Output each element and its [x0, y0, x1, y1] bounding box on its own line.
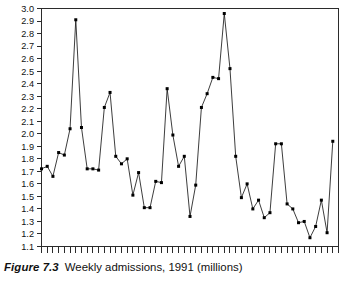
- data-point-marker: [166, 87, 169, 90]
- data-point-marker: [109, 91, 112, 94]
- data-point-marker: [263, 216, 266, 219]
- x-axis-tick-label: Dec: [319, 256, 336, 257]
- x-axis-tick-labels: JanJuneDec: [46, 256, 336, 257]
- y-axis-tick-label: 2.1: [21, 117, 34, 127]
- data-point-marker: [114, 155, 117, 158]
- y-axis-tick-label: 2.4: [21, 79, 34, 89]
- y-axis-tick-label: 1.8: [21, 154, 34, 164]
- data-point-marker: [160, 181, 163, 184]
- data-point-marker: [246, 182, 249, 185]
- data-point-marker: [331, 140, 334, 143]
- data-point-marker: [74, 18, 77, 21]
- data-point-marker: [177, 165, 180, 168]
- series-line: [42, 14, 333, 238]
- y-axis-tick-label: 1.4: [21, 204, 34, 214]
- data-point-marker: [40, 167, 43, 170]
- data-point-marker: [314, 225, 317, 228]
- data-point-marker: [189, 215, 192, 218]
- y-axis-tick-label: 2.0: [21, 129, 34, 139]
- data-point-marker: [126, 157, 129, 160]
- weekly-admissions-line-chart: 3.02.92.82.72.62.52.42.32.22.12.01.91.81…: [0, 0, 353, 256]
- data-point-marker: [194, 184, 197, 187]
- y-axis-tick-label: 2.2: [21, 104, 34, 114]
- y-axis-tick-label: 3.0: [21, 4, 34, 14]
- figure-caption: Figure 7.3Weekly admissions, 1991 (milli…: [4, 260, 349, 274]
- y-axis-tick-label: 2.3: [21, 92, 34, 102]
- data-point-marker: [69, 127, 72, 130]
- data-point-marker: [211, 76, 214, 79]
- y-axis-tick-label: 1.5: [21, 192, 34, 202]
- data-point-marker: [280, 142, 283, 145]
- data-point-marker: [320, 199, 323, 202]
- data-point-marker: [120, 162, 123, 165]
- y-axis-tick-label: 2.6: [21, 54, 34, 64]
- data-point-marker: [46, 165, 49, 168]
- y-axis-tick-label: 1.1: [21, 242, 34, 252]
- data-point-marker: [223, 12, 226, 15]
- series-weekly-admissions: [42, 14, 333, 238]
- data-point-marker: [240, 196, 243, 199]
- y-axis-tick-label: 1.3: [21, 217, 34, 227]
- data-point-marker: [308, 236, 311, 239]
- data-point-marker: [206, 92, 209, 95]
- y-axis-tick-label: 1.6: [21, 179, 34, 189]
- data-point-marker: [91, 167, 94, 170]
- data-point-marker: [303, 220, 306, 223]
- data-point-marker: [251, 207, 254, 210]
- data-point-marker: [326, 231, 329, 234]
- data-point-marker: [200, 106, 203, 109]
- y-axis-tick-label: 2.5: [21, 67, 34, 77]
- y-axis-tick-label: 2.9: [21, 16, 34, 26]
- x-axis-tick-label: June: [174, 256, 194, 257]
- data-point-marker: [291, 207, 294, 210]
- data-point-marker: [234, 155, 237, 158]
- y-axis-tick-label: 2.7: [21, 41, 34, 51]
- data-point-marker: [51, 175, 54, 178]
- data-point-marker: [286, 202, 289, 205]
- data-point-marker: [63, 154, 66, 157]
- data-point-marker: [268, 211, 271, 214]
- figure-caption-label: Figure 7.3: [4, 261, 59, 273]
- figure-container: 3.02.92.82.72.62.52.42.32.22.12.01.91.81…: [0, 0, 353, 283]
- y-axis-tick-label: 1.2: [21, 229, 34, 239]
- y-axis-tick-label: 2.8: [21, 29, 34, 39]
- data-point-marker: [257, 199, 260, 202]
- chart-plot-area: 3.02.92.82.72.62.52.42.32.22.12.01.91.81…: [0, 0, 353, 256]
- y-axis: 3.02.92.82.72.62.52.42.32.22.12.01.91.81…: [21, 4, 41, 252]
- data-point-markers: [40, 12, 334, 239]
- data-point-marker: [228, 67, 231, 70]
- data-point-marker: [97, 169, 100, 172]
- data-point-marker: [217, 77, 220, 80]
- data-point-marker: [183, 155, 186, 158]
- data-point-marker: [80, 126, 83, 129]
- data-point-marker: [149, 206, 152, 209]
- data-point-marker: [131, 194, 134, 197]
- x-axis: [42, 247, 339, 253]
- data-point-marker: [274, 142, 277, 145]
- figure-caption-text: Weekly admissions, 1991 (millions): [59, 261, 243, 273]
- data-point-marker: [171, 134, 174, 137]
- data-point-marker: [86, 167, 89, 170]
- data-point-marker: [143, 206, 146, 209]
- data-point-marker: [297, 221, 300, 224]
- data-point-marker: [57, 151, 60, 154]
- data-point-marker: [154, 180, 157, 183]
- data-point-marker: [137, 171, 140, 174]
- data-point-marker: [103, 106, 106, 109]
- x-axis-tick-label: Jan: [46, 256, 61, 257]
- y-axis-tick-label: 1.9: [21, 142, 34, 152]
- y-axis-tick-label: 1.7: [21, 167, 34, 177]
